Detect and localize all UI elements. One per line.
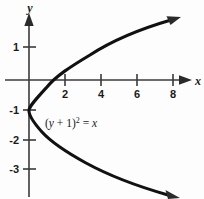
y-tick-label-1: 1 — [13, 41, 19, 53]
y-tick-label-minus-3: -3 — [9, 163, 19, 175]
x-tick-label-4: 4 — [98, 88, 105, 100]
x-axis — [5, 75, 192, 84]
graph-canvas: 2 4 6 8 1 -1 -2 -3 y x (y + 1)2 = x — [0, 0, 204, 199]
y-axis-label: y — [25, 1, 33, 15]
equation-variable-x: x — [91, 117, 98, 129]
x-tick-label-6: 6 — [134, 88, 140, 100]
equation-annotation: (y + 1)2 = x — [45, 116, 98, 130]
equation-equals: = — [80, 117, 92, 129]
curve-lower-arrowhead — [166, 190, 181, 199]
parabola-graph-figure: 2 4 6 8 1 -1 -2 -3 y x (y + 1)2 = x — [0, 0, 204, 199]
x-tick-label-2: 2 — [62, 88, 68, 100]
equation-plus-one: + 1) — [54, 117, 76, 130]
y-tick-label-minus-1: -1 — [9, 104, 19, 116]
x-axis-arrowhead — [179, 75, 192, 84]
curve-upper-arrowhead — [167, 16, 182, 25]
parabola-curve — [29, 20, 171, 195]
y-tick-label-minus-2: -2 — [9, 134, 19, 146]
x-axis-label: x — [194, 74, 201, 88]
x-tick-label-8: 8 — [170, 88, 176, 100]
